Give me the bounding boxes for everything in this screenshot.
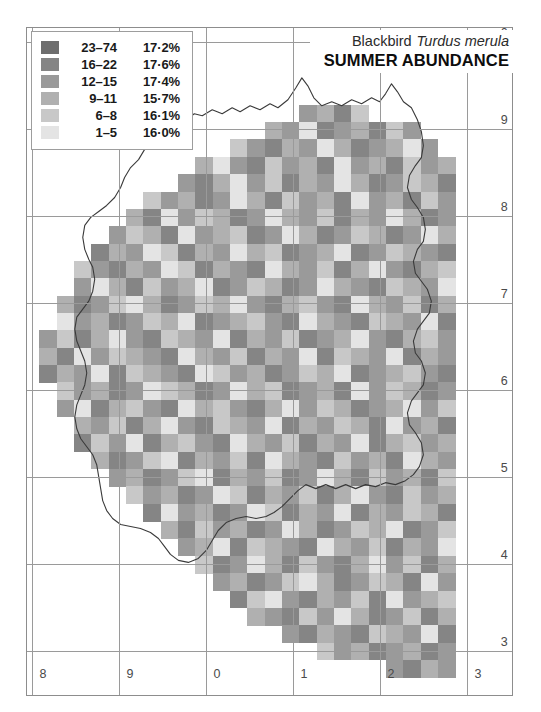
abundance-cell <box>334 261 352 279</box>
abundance-cell <box>334 625 352 643</box>
abundance-cell <box>247 313 265 331</box>
abundance-cell <box>403 521 421 539</box>
abundance-cell <box>282 591 300 609</box>
abundance-cell <box>438 382 456 400</box>
abundance-cell <box>247 608 265 626</box>
abundance-cell <box>161 261 179 279</box>
abundance-cell <box>265 192 283 210</box>
abundance-cell <box>109 348 127 366</box>
legend-range-label: 23–74 <box>70 40 117 55</box>
abundance-cell <box>334 591 352 609</box>
legend-row: 9–1115·7% <box>41 90 180 107</box>
abundance-cell <box>438 521 456 539</box>
abundance-cell <box>178 382 196 400</box>
abundance-cell <box>265 504 283 522</box>
abundance-cell <box>421 348 439 366</box>
legend-row: 16–2217·6% <box>41 56 180 73</box>
abundance-cell <box>421 382 439 400</box>
abundance-cell <box>282 139 300 157</box>
abundance-cell <box>403 296 421 314</box>
abundance-cell <box>57 296 75 314</box>
abundance-cell <box>334 192 352 210</box>
legend-percent-label: 17·4% <box>130 74 180 89</box>
abundance-cell <box>369 313 387 331</box>
abundance-cell <box>282 365 300 383</box>
abundance-cell <box>421 608 439 626</box>
abundance-cell <box>57 313 75 331</box>
abundance-cell <box>369 226 387 244</box>
abundance-cell <box>421 400 439 418</box>
abundance-cell <box>299 313 317 331</box>
x-axis-tick: 1 <box>297 668 311 681</box>
abundance-cell <box>230 400 248 418</box>
abundance-cell <box>57 348 75 366</box>
abundance-cell <box>438 278 456 296</box>
abundance-cell <box>403 348 421 366</box>
x-axis-tick: 2 <box>384 668 398 681</box>
abundance-cell <box>178 365 196 383</box>
abundance-cell <box>438 313 456 331</box>
abundance-cell <box>143 365 161 383</box>
abundance-cell <box>317 261 335 279</box>
abundance-cell <box>161 365 179 383</box>
abundance-cell <box>109 330 127 348</box>
abundance-cell <box>126 296 144 314</box>
x-axis-tick: 0 <box>210 668 224 681</box>
abundance-cell <box>57 330 75 348</box>
abundance-cell <box>386 209 404 227</box>
abundance-cell <box>195 434 213 452</box>
abundance-cell <box>403 504 421 522</box>
abundance-cell <box>421 573 439 591</box>
abundance-cell <box>161 278 179 296</box>
abundance-cell <box>369 434 387 452</box>
abundance-cell <box>334 139 352 157</box>
abundance-cell <box>143 348 161 366</box>
abundance-cell <box>247 521 265 539</box>
abundance-cell <box>334 365 352 383</box>
abundance-cell <box>213 330 231 348</box>
abundance-cell <box>282 261 300 279</box>
abundance-cell <box>438 434 456 452</box>
abundance-cell <box>195 226 213 244</box>
abundance-cell <box>230 434 248 452</box>
abundance-cell <box>74 382 92 400</box>
abundance-cell <box>195 330 213 348</box>
abundance-cell <box>213 226 231 244</box>
abundance-cell <box>178 174 196 192</box>
abundance-cell <box>161 434 179 452</box>
abundance-cell <box>386 573 404 591</box>
abundance-cell <box>299 486 317 504</box>
abundance-cell <box>421 660 439 678</box>
abundance-cell <box>403 591 421 609</box>
abundance-cell <box>386 521 404 539</box>
abundance-cell <box>299 504 317 522</box>
species-latin-name: Turdus merula <box>417 33 509 49</box>
gridline-horizontal <box>27 477 512 478</box>
abundance-cell <box>247 139 265 157</box>
abundance-cell <box>161 400 179 418</box>
abundance-cell <box>195 538 213 556</box>
map-subtitle: SUMMER ABUNDANCE <box>324 51 509 71</box>
abundance-cell <box>282 278 300 296</box>
abundance-cell <box>230 417 248 435</box>
abundance-cell <box>351 573 369 591</box>
abundance-cell <box>282 157 300 175</box>
legend-swatch <box>41 109 59 122</box>
abundance-cell <box>265 521 283 539</box>
y-axis-tick: 3 <box>501 636 508 649</box>
abundance-cell <box>386 157 404 175</box>
abundance-cell <box>178 417 196 435</box>
abundance-cell <box>126 400 144 418</box>
abundance-cell <box>334 486 352 504</box>
abundance-cell <box>386 330 404 348</box>
abundance-cell <box>351 313 369 331</box>
abundance-cell <box>369 382 387 400</box>
abundance-cell <box>299 226 317 244</box>
abundance-cell <box>351 382 369 400</box>
abundance-cell <box>369 538 387 556</box>
abundance-cell <box>282 348 300 366</box>
abundance-cell <box>386 261 404 279</box>
abundance-cell <box>178 538 196 556</box>
gridline-horizontal <box>27 303 512 304</box>
abundance-cell <box>178 192 196 210</box>
